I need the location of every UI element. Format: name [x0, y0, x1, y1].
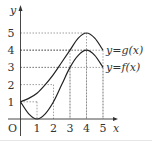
y-tick-label: 2 [8, 79, 15, 92]
grid-lines [21, 33, 104, 119]
y-axis-arrow-icon [19, 5, 23, 11]
y-tick-label: 5 [8, 27, 15, 40]
origin-label: O [8, 122, 17, 135]
divider [0, 140, 152, 141]
tick-labels: x y O 1234512345y=g(x)y=f(x) [8, 4, 144, 135]
x-axis-label: x [113, 122, 120, 135]
x-tick-label: 5 [100, 122, 107, 135]
y-tick-label: 1 [8, 96, 15, 109]
x-tick-label: 4 [83, 122, 90, 135]
curves [21, 33, 104, 119]
x-tick-label: 1 [34, 122, 41, 135]
x-tick-label: 2 [50, 122, 57, 135]
y-tick-label: 3 [8, 61, 15, 74]
x-tick-label: 3 [67, 122, 74, 135]
x-axis-arrow-icon [113, 117, 118, 121]
curve-g-label: y=g(x) [105, 44, 143, 57]
y-tick-label: 4 [8, 44, 15, 57]
curve-f-label: y=f(x) [105, 61, 140, 74]
function-graph: x y O 1234512345y=g(x)y=f(x) [0, 0, 152, 147]
y-axis-label: y [9, 4, 17, 17]
